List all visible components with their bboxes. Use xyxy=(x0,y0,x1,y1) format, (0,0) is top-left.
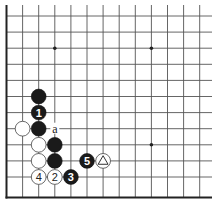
black-stone xyxy=(47,137,62,152)
black-stone xyxy=(47,154,62,169)
star-point xyxy=(53,46,57,50)
black-stone-disc xyxy=(31,89,46,104)
star-point xyxy=(150,46,154,50)
white-stone: 2 xyxy=(47,170,62,185)
white-stone: 4 xyxy=(31,170,46,185)
white-stone-disc xyxy=(15,121,30,136)
point-label: a xyxy=(52,122,58,136)
move-number: 1 xyxy=(36,107,42,119)
black-stone: 3 xyxy=(64,170,79,185)
move-number: 4 xyxy=(36,171,42,183)
stones: 15423 xyxy=(15,89,110,184)
black-stone-disc xyxy=(47,137,62,152)
black-stone: 5 xyxy=(80,154,95,169)
white-stone xyxy=(31,154,46,169)
black-stone-disc xyxy=(31,121,46,136)
move-number: 3 xyxy=(68,171,74,183)
go-board: 15423 a xyxy=(0,0,214,207)
black-stone: 1 xyxy=(31,105,46,120)
white-stone xyxy=(96,154,111,169)
point-labels: a xyxy=(50,122,59,136)
white-stone xyxy=(31,137,46,152)
move-number: 2 xyxy=(52,171,58,183)
black-stone-disc xyxy=(47,154,62,169)
move-number: 5 xyxy=(84,155,90,167)
black-stone xyxy=(31,121,46,136)
white-stone-disc xyxy=(31,137,46,152)
black-stone xyxy=(31,89,46,104)
white-stone xyxy=(15,121,30,136)
star-point xyxy=(150,143,154,147)
white-stone-disc xyxy=(31,154,46,169)
